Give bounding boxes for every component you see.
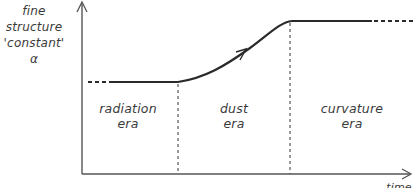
y-axis-label: fine structure 'constant' α: [0, 3, 68, 67]
y-axis: [77, 2, 87, 174]
era-label-dust-line1: dust: [184, 101, 284, 116]
curve-rising: [178, 21, 292, 82]
era-label-curvature-line1: curvature: [302, 101, 402, 116]
y-axis-label-symbol: α: [0, 51, 68, 67]
y-axis-label-line1: fine: [0, 3, 68, 19]
y-axis-label-line2: structure: [0, 19, 68, 35]
y-axis-label-line3: 'constant': [0, 35, 68, 51]
fine-structure-constant-diagram: fine structure 'constant' α radiation er…: [0, 0, 414, 188]
x-axis: [82, 169, 411, 179]
era-label-radiation: radiation era: [78, 101, 178, 131]
era-label-radiation-line1: radiation: [78, 101, 178, 116]
x-axis-label: time: [382, 180, 414, 188]
era-label-radiation-line2: era: [78, 116, 178, 131]
era-label-dust-line2: era: [184, 116, 284, 131]
era-label-curvature: curvature era: [302, 101, 402, 131]
era-label-curvature-line2: era: [302, 116, 402, 131]
era-label-dust: dust era: [184, 101, 284, 131]
